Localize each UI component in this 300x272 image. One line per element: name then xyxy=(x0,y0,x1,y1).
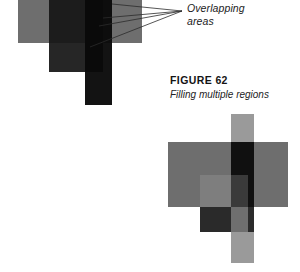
figure-caption: FIGURE 62 Filling multiple regions xyxy=(170,74,298,101)
bottom-overlap-square-hbar-vbar xyxy=(231,175,248,207)
bottom-overlap-square-vbar xyxy=(231,207,248,232)
bottom-vbar-lower-strip xyxy=(248,207,254,232)
overlapping-areas-annotation: Overlapping areas xyxy=(187,2,295,28)
annotation-line-1: Overlapping xyxy=(187,2,295,15)
bottom-overlap-square-lower-left xyxy=(200,207,231,232)
figure-caption-title: FIGURE 62 xyxy=(170,74,298,87)
annotation-line-2: areas xyxy=(187,15,295,28)
top-overlap-bar-square xyxy=(49,0,85,43)
top-overlap-square-vbar xyxy=(85,0,103,72)
figure-illustration-area: Overlapping areas FIGURE 62 Filling mult… xyxy=(0,0,300,272)
top-overlap-hbar-vbar xyxy=(103,0,112,43)
figure-caption-subtitle: Filling multiple regions xyxy=(170,88,298,101)
